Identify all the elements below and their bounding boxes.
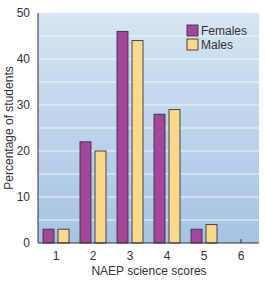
y-tick-label: 20	[17, 144, 31, 158]
x-tick-label: 2	[90, 249, 97, 263]
x-tick-label: 3	[127, 249, 134, 263]
bar-males-4	[169, 110, 180, 243]
y-tick-label: 50	[17, 6, 31, 20]
bar-chart: 01020304050 123456 Percentage of student…	[0, 0, 266, 282]
y-tick-label: 10	[17, 190, 31, 204]
bar-females-4	[154, 114, 165, 243]
bar-males-5	[206, 225, 217, 243]
bar-females-1	[43, 229, 54, 243]
y-tick-label: 0	[23, 236, 30, 250]
bar-females-2	[80, 142, 91, 243]
legend-label-females: Females	[201, 24, 247, 38]
x-tick-label: 5	[201, 249, 208, 263]
y-tick-label: 30	[17, 98, 31, 112]
bar-females-3	[117, 31, 128, 243]
bar-males-3	[132, 41, 143, 243]
x-tick-label: 4	[164, 249, 171, 263]
legend-swatch-males	[187, 39, 198, 50]
x-axis-label: NAEP science scores	[91, 264, 206, 278]
legend-swatch-females	[187, 25, 198, 36]
bar-females-5	[191, 229, 202, 243]
x-axis-ticks: 123456	[53, 249, 245, 263]
y-axis-label: Percentage of students	[2, 66, 16, 189]
x-tick-label: 6	[238, 249, 245, 263]
y-tick-label: 40	[17, 52, 31, 66]
x-tick-label: 1	[53, 249, 60, 263]
y-axis-ticks: 01020304050	[17, 6, 31, 250]
bar-males-1	[58, 229, 69, 243]
bar-males-2	[95, 151, 106, 243]
legend-label-males: Males	[201, 38, 233, 52]
